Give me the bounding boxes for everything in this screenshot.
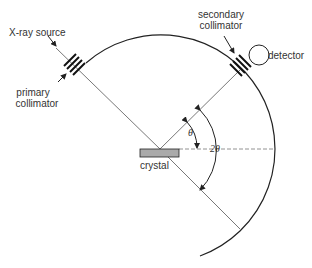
two-theta-label: 2θ [210, 143, 220, 154]
secondary-collimator-label-2: collimator [200, 20, 243, 31]
crystal [140, 149, 179, 157]
transmitted-beam [160, 149, 240, 229]
detector-label: detector [268, 50, 305, 61]
primary-collimator [64, 54, 85, 75]
crystal-label: crystal [140, 160, 169, 171]
primary-collimator-label-2: collimator [16, 98, 59, 109]
xray-source-label: X-ray source [9, 27, 66, 38]
secondary-collimator-arrow [224, 36, 234, 53]
primary-collimator-label-1: primary [16, 87, 49, 98]
detector [249, 45, 269, 65]
primary-collimator-arrow [58, 74, 66, 82]
secondary-collimator [230, 55, 251, 76]
secondary-collimator-label-1: secondary [198, 9, 244, 20]
diffraction-diagram: X-ray source primary collimator secondar… [0, 0, 312, 268]
diffracted-beam [160, 70, 240, 149]
theta-label: θ [188, 127, 193, 138]
